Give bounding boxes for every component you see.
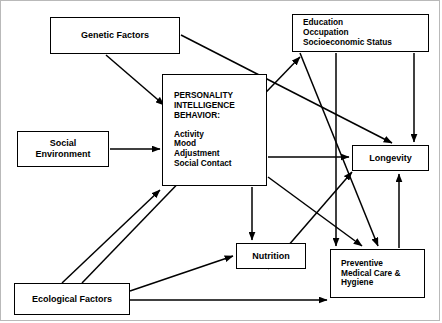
node-ecological-factors-label: Ecological Factors bbox=[32, 294, 112, 305]
node-personality-heading-line-3: BEHAVIOR: bbox=[174, 111, 220, 121]
node-nutrition-label: Nutrition bbox=[252, 251, 290, 262]
node-social-environment-label-line-2: Environment bbox=[35, 149, 90, 160]
node-genetic-factors[interactable]: Genetic Factors bbox=[50, 17, 180, 54]
edge-personality-to-preventive bbox=[268, 177, 362, 246]
node-education-label-line-3: Socioeconomic Status bbox=[303, 38, 392, 48]
node-social-environment-label-line-1: Social bbox=[50, 138, 77, 149]
edge-ecological-to-personality bbox=[62, 190, 160, 283]
edge-ecological-to-nutrition bbox=[130, 256, 233, 291]
edge-genetic-to-personality bbox=[106, 55, 164, 105]
node-longevity[interactable]: Longevity bbox=[352, 145, 429, 171]
node-personality-item-social-contact: Social Contact bbox=[174, 159, 232, 169]
node-education-occupation-socioeconomic-status[interactable]: Education Occupation Socioeconomic Statu… bbox=[292, 14, 429, 52]
node-personality-intelligence-behavior[interactable]: PERSONALITY INTELLIGENCE BEHAVIOR: Activ… bbox=[162, 74, 267, 186]
node-preventive-label-line-3: Hygiene bbox=[341, 278, 373, 288]
node-social-environment[interactable]: Social Environment bbox=[17, 131, 109, 167]
node-longevity-label: Longevity bbox=[369, 153, 412, 164]
node-ecological-factors[interactable]: Ecological Factors bbox=[14, 283, 130, 315]
node-preventive-medical-care-hygiene[interactable]: Preventive Medical Care & Hygiene bbox=[330, 249, 425, 298]
node-nutrition[interactable]: Nutrition bbox=[236, 243, 306, 269]
diagram-canvas: Genetic Factors Social Environment Ecolo… bbox=[0, 0, 442, 323]
node-genetic-factors-label: Genetic Factors bbox=[81, 30, 149, 41]
